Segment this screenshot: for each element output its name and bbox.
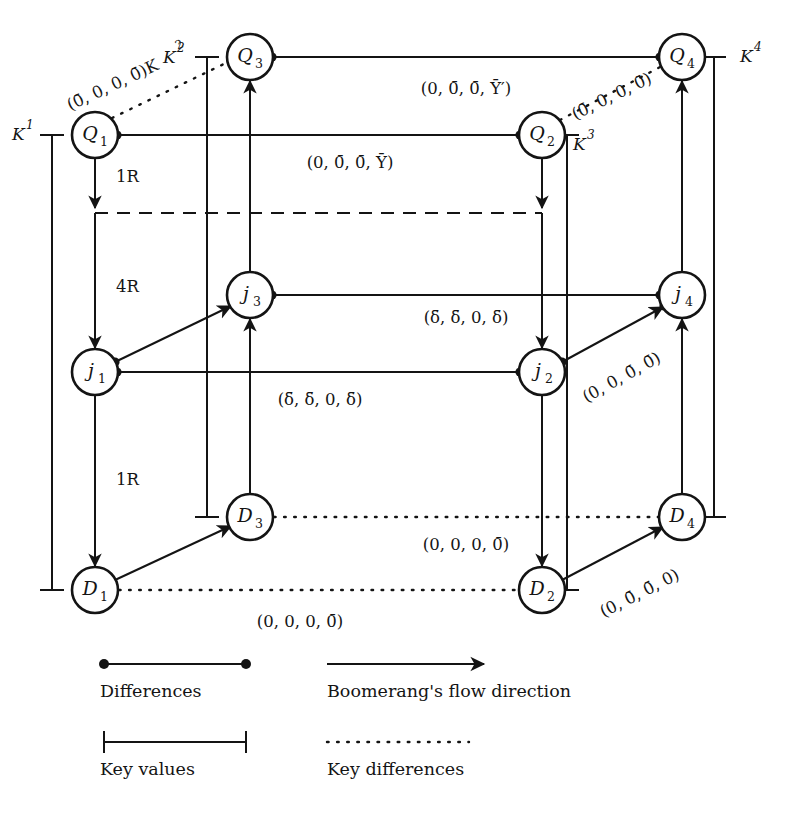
node-sub-D3: 3 xyxy=(255,516,263,531)
node-label-Q1: Q xyxy=(82,122,98,144)
edge-label-Q3-Q4: (0, 0̄, 0̄, Ȳ′) xyxy=(421,78,511,98)
round-label-4R: 4R xyxy=(116,277,139,296)
edge-Q1-Q2 xyxy=(112,130,524,139)
key-label-K4-text: K xyxy=(739,46,754,66)
legend-label-differences: Differences xyxy=(100,681,202,701)
key-label-K1-text: K xyxy=(11,124,26,144)
key-label-K3-sup: 3 xyxy=(587,128,595,142)
edge-label-j1-j2: (δ̄, δ̄, 0, δ̄) xyxy=(278,390,363,409)
node-sub-Q3: 3 xyxy=(255,56,263,71)
node-sub-D2: 2 xyxy=(547,589,555,604)
node-label-Q2: Q xyxy=(529,122,545,144)
edge-Q3-Q4 xyxy=(267,52,664,61)
key-label-K4-sup: 4 xyxy=(753,40,762,54)
legend-label-key-values: Key values xyxy=(100,759,195,779)
node-Q2[interactable]: Q 2 xyxy=(519,112,565,158)
node-j4[interactable]: j 4 xyxy=(659,272,705,318)
node-j2[interactable]: j 2 xyxy=(519,349,565,395)
node-j3[interactable]: j 3 xyxy=(227,272,273,318)
node-j1[interactable]: j 1 xyxy=(72,349,118,395)
key-bracket-K2 xyxy=(195,57,219,517)
key-label-K3: K 3 xyxy=(572,128,595,154)
node-label-Q3: Q xyxy=(237,44,253,66)
edge-label-Q1-Q3: (0̄, 0, 0, 0̄)K xyxy=(64,55,162,114)
key-label-K1: K 1 xyxy=(11,118,34,144)
key-label-K4: K 4 xyxy=(739,40,762,66)
node-Q1[interactable]: Q 1 xyxy=(72,112,118,158)
legend-marker-key-values xyxy=(104,731,246,753)
node-label-D1: D xyxy=(81,577,97,599)
node-Q4[interactable]: Q 4 xyxy=(659,34,705,80)
edge-label-Q2-Q4-group: (0̄, 0, 0, 0̄) xyxy=(569,69,655,124)
boomerang-diagram-figure: Q 3 Q 4 Q 1 Q 2 j 3 j 4 j xyxy=(0,0,801,818)
node-D3[interactable]: D 3 xyxy=(227,494,273,540)
legend: Differences Boomerang's flow direction K… xyxy=(99,659,571,779)
edge-label-D3-D4: (0, 0, 0, 0̄) xyxy=(423,535,509,554)
node-Q3[interactable]: Q 3 xyxy=(227,34,273,80)
node-label-D3: D xyxy=(236,504,252,526)
legend-label-flow-direction: Boomerang's flow direction xyxy=(327,681,571,701)
node-sub-Q4: 4 xyxy=(687,56,695,71)
node-sub-Q2: 2 xyxy=(547,134,555,149)
node-label-D4: D xyxy=(668,504,684,526)
legend-label-key-differences: Key differences xyxy=(327,759,464,779)
node-sub-j3: 3 xyxy=(253,294,261,309)
key-bracket-K4 xyxy=(702,57,726,517)
key-label-K2-text: K xyxy=(162,47,177,67)
node-sub-j4: 4 xyxy=(685,294,693,309)
legend-marker-differences xyxy=(99,659,251,669)
node-label-D2: D xyxy=(528,577,544,599)
edge-label-D2-D4: (0, 0̄, 0̄, 0) xyxy=(597,565,683,621)
node-D4[interactable]: D 4 xyxy=(659,494,705,540)
node-D2[interactable]: D 2 xyxy=(519,567,565,613)
key-label-K1-sup: 1 xyxy=(26,118,34,132)
node-label-Q4: Q xyxy=(669,44,685,66)
edge-j3-j4 xyxy=(267,290,664,299)
node-D1[interactable]: D 1 xyxy=(72,567,118,613)
edge-label-j2-j4: (0, 0, 0̄, 0̄) xyxy=(579,348,664,406)
round-label-1R-top: 1R xyxy=(116,167,139,186)
key-label-K3-text: K xyxy=(572,134,587,154)
node-sub-D1: 1 xyxy=(100,589,108,604)
edge-label-D1-D2: (0, 0, 0, 0̄) xyxy=(257,612,343,631)
flow-D2-to-D4-diagonal xyxy=(562,527,663,580)
node-sub-j1: 1 xyxy=(98,371,106,386)
key-bracket-K1 xyxy=(40,135,64,590)
node-sub-j2: 2 xyxy=(545,371,553,386)
edge-j1-j2 xyxy=(112,367,524,376)
edge-label-j2-j4-group: (0, 0, 0̄, 0̄) xyxy=(579,348,664,406)
edge-label-j3-j4: (δ̄, δ̄, 0, δ̄) xyxy=(424,308,509,327)
node-sub-Q1: 1 xyxy=(100,134,108,149)
flow-j1-to-j3-diagonal xyxy=(110,300,237,366)
round-label-1R-bottom: 1R xyxy=(116,470,139,489)
flow-D1-to-D3-diagonal xyxy=(115,526,231,580)
edge-label-Q1-Q2: (0, 0̄, 0̄, Ȳ) xyxy=(307,152,394,172)
edge-label-Q2-Q4: (0̄, 0, 0, 0̄) xyxy=(569,69,655,124)
node-sub-D4: 4 xyxy=(687,516,695,531)
edge-label-D2-D4-group: (0, 0̄, 0̄, 0) xyxy=(597,565,683,621)
diagram-canvas: Q 3 Q 4 Q 1 Q 2 j 3 j 4 j xyxy=(0,0,801,818)
